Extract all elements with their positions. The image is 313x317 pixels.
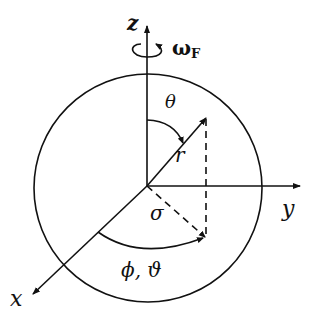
- x-axis-label: x: [10, 288, 22, 310]
- phi-arc: [98, 232, 203, 249]
- z-axis-label: z: [127, 13, 138, 33]
- theta-arc: [147, 120, 183, 143]
- theta-label: θ: [165, 93, 176, 111]
- y-axis-label: y: [282, 198, 294, 220]
- omega-symbol: ω: [172, 36, 191, 60]
- spherical-coordinates-diagram: z ωF θ r y σ ϕ, ϑ x: [0, 0, 313, 317]
- omega-subscript: F: [191, 46, 200, 61]
- sigma-label: σ: [150, 203, 164, 223]
- phi-label: ϕ, ϑ: [121, 260, 162, 280]
- radius-label: r: [175, 145, 185, 165]
- rotation-label: ωF: [172, 38, 200, 60]
